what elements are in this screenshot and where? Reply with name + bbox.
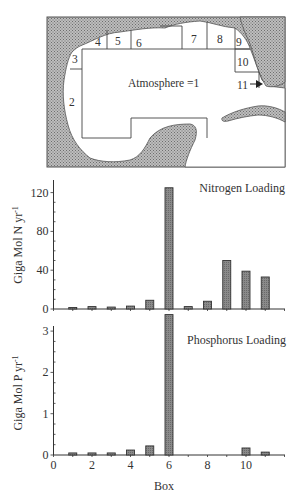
bar-box-4 [127,450,135,455]
map-label-box-3: 3 [72,53,78,65]
bar-box-11 [261,452,269,455]
x-axis-label: Box [154,479,174,493]
phosphorus-x-ticks: 0246810 [51,455,285,472]
bar-box-4 [127,306,135,309]
bar-box-10 [242,448,250,455]
nitrogen-chart: 04080120 Nitrogen Loading Giga Mol N yr-… [11,180,285,316]
x-tick-label: 10 [240,458,252,472]
nitrogen-y-ticks: 04080120 [31,186,56,316]
bar-box-5 [146,300,154,309]
y-tick-label: 0 [43,302,49,316]
figure: 2 3 4 5 6 7 8 9 10 11 Atmosphere =1 0408… [0,0,301,503]
map-label-box-10: 10 [237,56,249,68]
y-tick-label: 80 [37,224,49,238]
gulf-map: 2 3 4 5 6 7 8 9 10 11 Atmosphere =1 [47,17,285,167]
x-tick-label: 4 [128,458,134,472]
nitrogen-bars [69,188,270,309]
bar-box-2 [88,453,96,455]
bar-box-7 [184,307,192,309]
bar-box-1 [69,453,77,455]
map-label-box-6: 6 [136,37,142,49]
map-label-box-7: 7 [191,33,197,45]
bar-box-8 [204,301,212,309]
y-tick-label: 0 [43,448,49,462]
bar-box-2 [88,307,96,309]
bar-box-5 [146,446,154,455]
phosphorus-chart: 0123 0246810 Phosphorus Loading Giga Mol… [11,315,286,493]
map-label-box-2: 2 [69,96,75,108]
y-tick-label: 1 [43,407,49,421]
x-tick-label: 8 [205,458,211,472]
bar-box-1 [69,308,77,310]
x-tick-label: 0 [51,458,57,472]
bar-box-9 [223,261,231,310]
phosphorus-y-label: Giga Mol P yr-1 [11,355,25,430]
bar-box-11 [261,277,269,309]
y-tick-label: 40 [37,263,49,277]
y-tick-label: 3 [43,324,49,338]
y-tick-label: 2 [43,365,49,379]
bar-box-3 [107,307,115,309]
x-tick-label: 6 [166,458,172,472]
atmosphere-label: Atmosphere =1 [128,77,200,90]
map-label-box-5: 5 [115,35,121,47]
y-tick-label: 120 [31,186,49,200]
nitrogen-y-label: Giga Mol N yr-1 [11,206,25,284]
x-tick-label: 2 [89,458,95,472]
bar-box-6 [165,315,173,455]
bar-box-10 [242,271,250,309]
map-label-box-9: 9 [236,36,242,48]
bar-box-6 [165,188,173,309]
map-label-box-11: 11 [237,79,248,91]
phosphorus-title: Phosphorus Loading [187,333,286,347]
nitrogen-title: Nitrogen Loading [199,181,285,195]
map-label-box-4: 4 [95,36,101,48]
map-label-box-8: 8 [217,33,223,45]
bar-box-3 [107,453,115,455]
